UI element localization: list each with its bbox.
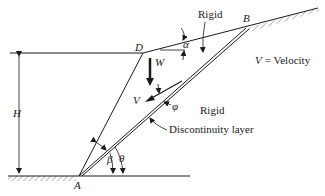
velocity-angle-tick [158, 84, 159, 93]
discontinuity-leader [150, 118, 167, 130]
slope-diagram: H D B A Rigid α W V φ Rigid Discontinuit… [0, 0, 325, 196]
velocity-legend-text: = Velocity [265, 54, 311, 66]
angle-arc-face [96, 142, 106, 150]
beta-label: β [106, 153, 113, 165]
height-label: H [12, 107, 22, 119]
velocity-arrow-line [150, 81, 182, 99]
weight-label: W [155, 56, 165, 68]
velocity-legend: V= Velocity [255, 54, 311, 66]
rigid-bottom-label: Rigid [200, 104, 225, 116]
alpha-label: α [183, 38, 189, 50]
discontinuity-label: Discontinuity layer [169, 123, 254, 135]
ground-surface-DB [143, 8, 318, 53]
point-B-label: B [243, 12, 250, 24]
ground-hatch-left [8, 176, 76, 181]
rigid-top-label: Rigid [198, 8, 223, 20]
velocity-label: V [133, 94, 141, 106]
ground-hatch-slope [248, 8, 320, 32]
phi-label: φ [172, 100, 178, 112]
theta-label: θ [119, 152, 125, 164]
point-A-label: A [73, 179, 81, 191]
point-D-label: D [134, 41, 143, 53]
velocity-legend-symbol: V [255, 54, 263, 66]
weight-arrowhead [146, 78, 154, 86]
alpha-arrow [183, 51, 184, 60]
velocity-arrowhead [145, 95, 155, 102]
